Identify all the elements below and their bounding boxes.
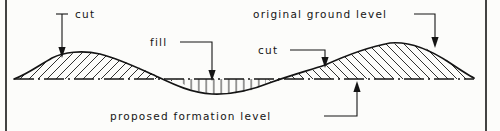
diagram-canvas: cut fill cut original ground level propo…: [0, 0, 500, 131]
leader-proposed-formation-level: [324, 81, 361, 116]
leader-original-ground-level: [414, 14, 439, 48]
label-proposed-formation-level: proposed formation level: [110, 110, 272, 122]
label-cut-left: cut: [75, 8, 95, 20]
leader-fill: [180, 42, 216, 81]
label-fill: fill: [150, 36, 167, 48]
label-cut-right: cut: [258, 44, 278, 56]
earthworks-cross-section-figure: cut fill cut original ground level propo…: [0, 0, 500, 131]
leader-cut-left: [56, 14, 68, 58]
label-original-ground-level: original ground level: [253, 8, 387, 20]
